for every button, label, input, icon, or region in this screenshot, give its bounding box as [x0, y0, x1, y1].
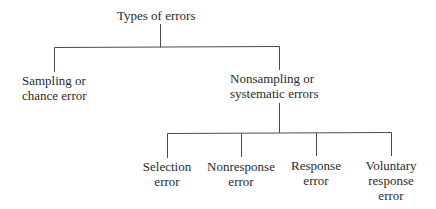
node-label-line: Voluntary [365, 158, 416, 173]
root-label: Types of errors [117, 8, 196, 23]
node-response-error: Response error [291, 158, 341, 188]
node-label-line: Nonsampling or [230, 71, 318, 86]
node-label-line: Response [291, 158, 341, 173]
node-nonsampling-errors: Nonsampling or systematic errors [230, 71, 318, 101]
level2-horizontal-line [168, 133, 392, 134]
node-nonresponse-error: Nonresponse error [207, 159, 275, 189]
level1-horizontal-line [55, 47, 280, 48]
node-label-line: response [365, 173, 416, 188]
node-label-line: Sampling or [22, 73, 87, 88]
node-label-line: error [291, 173, 341, 188]
node-label-line: error [207, 174, 275, 189]
node-sampling-error: Sampling or chance error [22, 73, 87, 103]
node-label-line: Nonresponse [207, 159, 275, 174]
node-selection-error: Selection error [143, 159, 191, 189]
node-label-line: error [143, 174, 191, 189]
node-label-line: systematic errors [230, 86, 318, 101]
node-label-line: chance error [22, 88, 87, 103]
error-types-tree-diagram: Types of errors Sampling or chance error… [0, 0, 436, 209]
node-label-line: error [365, 188, 416, 203]
node-label-line: Selection [143, 159, 191, 174]
root-node-types-of-errors: Types of errors [117, 8, 196, 23]
node-voluntary-response-error: Voluntary response error [365, 158, 416, 203]
